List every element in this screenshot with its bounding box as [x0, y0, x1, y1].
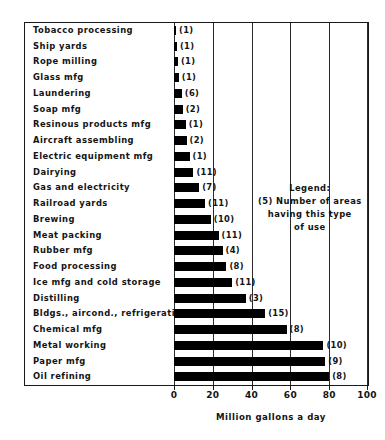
- bar: [174, 325, 287, 334]
- bar-value-label: (1): [182, 70, 196, 86]
- bar-value-label: (2): [190, 133, 204, 149]
- bar-value-label: (11): [196, 165, 217, 181]
- bar-row: (1): [174, 23, 368, 39]
- bar-row: (3): [174, 291, 368, 307]
- bar: [174, 26, 176, 35]
- bar: [174, 105, 183, 114]
- plot-area: (1)(1)(1)(1)(6)(2)(1)(2)(1)(11)(7)(11)(1…: [174, 23, 368, 385]
- legend-line-2: having this type: [252, 208, 368, 221]
- category-label: Paper mfg: [33, 354, 172, 370]
- bar-value-label: (10): [214, 212, 235, 228]
- bar-value-label: (10): [326, 338, 347, 354]
- bar-row: (15): [174, 306, 368, 322]
- category-label: Ice mfg and cold storage: [33, 275, 172, 291]
- bar-row: (11): [174, 275, 368, 291]
- bar: [174, 136, 187, 145]
- legend-line-3: of use: [252, 221, 368, 234]
- bar-value-label: (1): [181, 54, 195, 70]
- bar: [174, 215, 211, 224]
- bar-value-label: (4): [226, 243, 240, 259]
- bar-value-label: (11): [222, 228, 243, 244]
- bar: [174, 73, 179, 82]
- category-label: Oil refining: [33, 369, 172, 385]
- bar: [174, 183, 199, 192]
- bar-row: (1): [174, 39, 368, 55]
- bar-value-label: (7): [202, 180, 216, 196]
- bar: [174, 294, 246, 303]
- bar-row: (11): [174, 165, 368, 181]
- category-label: Gas and electricity: [33, 180, 172, 196]
- bar-row: (1): [174, 70, 368, 86]
- bar-row: (6): [174, 86, 368, 102]
- bar: [174, 89, 182, 98]
- x-tick-label: 60: [284, 390, 297, 400]
- x-axis: 020406080100: [174, 386, 368, 402]
- x-tick-label: 80: [323, 390, 336, 400]
- bar-value-label: (2): [186, 102, 200, 118]
- x-tick-label: 20: [206, 390, 219, 400]
- bar: [174, 278, 232, 287]
- category-label: Rope milling: [33, 54, 172, 70]
- category-label: Meat packing: [33, 228, 172, 244]
- category-label: Resinous products mfg: [33, 117, 172, 133]
- bar-row: (2): [174, 133, 368, 149]
- category-label: Soap mfg: [33, 102, 172, 118]
- bar: [174, 168, 193, 177]
- category-label: Food processing: [33, 259, 172, 275]
- bar: [174, 57, 178, 66]
- bar: [174, 42, 177, 51]
- bar-value-label: (1): [179, 23, 193, 39]
- bar-value-label: (6): [185, 86, 199, 102]
- category-label: Dairying: [33, 165, 172, 181]
- category-label: Railroad yards: [33, 196, 172, 212]
- bar-row: (2): [174, 102, 368, 118]
- category-label: Chemical mfg: [33, 322, 172, 338]
- bar-row: (4): [174, 243, 368, 259]
- category-label: Bldgs., aircond., refrigerating: [33, 306, 172, 322]
- category-label: Metal working: [33, 338, 172, 354]
- bar: [174, 199, 205, 208]
- bar-value-label: (9): [328, 354, 342, 370]
- bar-value-label: (1): [193, 149, 207, 165]
- bar: [174, 152, 190, 161]
- bar-value-label: (8): [332, 369, 346, 385]
- bar-row: (1): [174, 117, 368, 133]
- bar: [174, 262, 226, 271]
- bar: [174, 341, 323, 350]
- bar-row: (8): [174, 369, 368, 385]
- bar-row: (8): [174, 322, 368, 338]
- bar-value-label: (1): [189, 117, 203, 133]
- bar-row: (8): [174, 259, 368, 275]
- bar-value-label: (8): [229, 259, 243, 275]
- bar-row: (1): [174, 54, 368, 70]
- x-tick-label: 40: [245, 390, 258, 400]
- category-label: Rubber mfg: [33, 243, 172, 259]
- bar-value-label: (8): [290, 322, 304, 338]
- bar-chart-figure: Tobacco processingShip yardsRope milling…: [0, 0, 385, 440]
- bar: [174, 120, 186, 129]
- bar-value-label: (11): [235, 275, 256, 291]
- bar-row: (1): [174, 149, 368, 165]
- legend-line-1: (5) Number of areas: [252, 195, 368, 208]
- bar: [174, 246, 223, 255]
- category-label-column: Tobacco processingShip yardsRope milling…: [25, 23, 174, 385]
- bar-row: (10): [174, 338, 368, 354]
- category-label: Ship yards: [33, 39, 172, 55]
- bar-value-label: (15): [268, 306, 289, 322]
- category-label: Laundering: [33, 86, 172, 102]
- legend-heading: Legend:: [252, 182, 368, 195]
- x-tick-label: 100: [357, 390, 377, 400]
- category-label: Glass mfg: [33, 70, 172, 86]
- category-label: Brewing: [33, 212, 172, 228]
- bar-value-label: (1): [180, 39, 194, 55]
- category-label: Electric equipment mfg: [33, 149, 172, 165]
- category-label: Aircraft assembling: [33, 133, 172, 149]
- bar: [174, 357, 325, 366]
- bar: [174, 372, 329, 381]
- category-label: Distilling: [33, 291, 172, 307]
- x-tick-label: 0: [171, 390, 178, 400]
- bar-row: (9): [174, 354, 368, 370]
- bar-value-label: (3): [249, 291, 263, 307]
- bar: [174, 309, 265, 318]
- chart-legend: Legend: (5) Number of areas having this …: [252, 182, 368, 234]
